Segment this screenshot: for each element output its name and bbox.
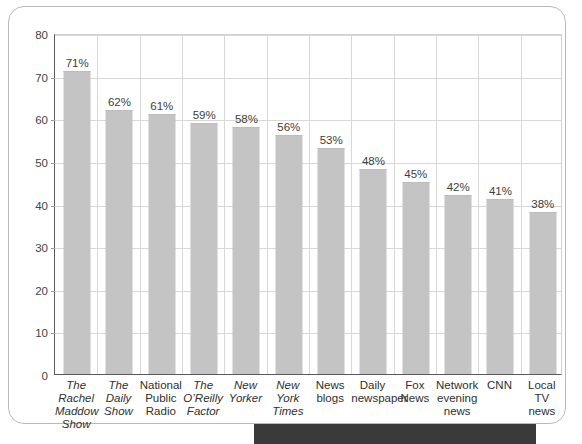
bar-value-label: 59%	[193, 109, 216, 121]
x-axis-label: NationalPublicRadio	[140, 379, 182, 418]
bar[interactable]	[64, 71, 91, 374]
y-axis-tick-label: 20	[35, 285, 48, 297]
bar[interactable]	[445, 195, 472, 374]
x-axis-label: LocalTV news	[521, 379, 563, 418]
x-axis-label-line: News	[309, 379, 351, 392]
bar-value-label: 41%	[489, 185, 512, 197]
bar-value-label: 71%	[66, 57, 89, 69]
y-axis-tick-label: 60	[35, 114, 48, 126]
x-axis-label-line: Times	[267, 405, 309, 418]
bar-slot: 45%	[395, 35, 437, 374]
x-axis-label-line: Yorker	[224, 392, 266, 405]
bar[interactable]	[233, 127, 260, 374]
x-axis-label: Dailynewspaper	[351, 379, 393, 405]
x-axis-label-line: O’Reilly	[182, 392, 224, 405]
x-axis-label: Newsblogs	[309, 379, 351, 405]
x-axis-label: TheDailyShow	[97, 379, 139, 418]
bar[interactable]	[318, 148, 345, 374]
x-axis-label-line: The	[182, 379, 224, 392]
y-axis-tick-mark	[51, 291, 55, 292]
x-axis-label: CNN	[478, 379, 520, 392]
x-axis-category-labels: The RachelMaddowShowTheDailyShowNational…	[55, 379, 563, 427]
bar-slot: 62%	[98, 35, 140, 374]
bar-slot: 59%	[183, 35, 225, 374]
x-axis-label: NewYorkTimes	[267, 379, 309, 418]
x-axis-label-line: blogs	[309, 392, 351, 405]
y-axis-tick-label: 0	[42, 370, 48, 382]
bar[interactable]	[106, 110, 133, 374]
bar-value-label: 62%	[108, 96, 131, 108]
bar[interactable]	[275, 135, 302, 374]
x-axis-label-line: News	[394, 392, 436, 405]
bar-slot: 41%	[479, 35, 521, 374]
x-axis-label-line: Fox	[394, 379, 436, 392]
x-axis-label-line: Show	[55, 418, 97, 431]
x-axis-label: TheO’ReillyFactor	[182, 379, 224, 418]
x-axis-label-line: CNN	[478, 379, 520, 392]
y-axis-tick-mark	[51, 120, 55, 121]
bar-value-label: 38%	[531, 198, 554, 210]
bar[interactable]	[529, 212, 556, 374]
bar-value-label: 56%	[277, 121, 300, 133]
bar-value-label: 48%	[362, 155, 385, 167]
bar[interactable]	[191, 123, 218, 374]
bar-slot: 48%	[352, 35, 394, 374]
y-axis-tick-mark	[51, 78, 55, 79]
x-axis-label-line: Show	[97, 405, 139, 418]
y-axis-tick-label: 50	[35, 157, 48, 169]
bar-value-label: 45%	[404, 168, 427, 180]
bar-slot: 58%	[225, 35, 267, 374]
bar[interactable]	[402, 182, 429, 374]
y-axis-tick-mark	[51, 163, 55, 164]
x-axis-label-line: evening	[436, 392, 478, 405]
bottom-dark-strip	[254, 424, 536, 444]
x-axis-label-line: New	[224, 379, 266, 392]
x-axis-label-line: Daily	[351, 379, 393, 392]
x-axis-label-line: The Rachel	[55, 379, 97, 405]
x-axis-label-line: National	[140, 379, 182, 392]
x-axis-label-line: The	[97, 379, 139, 392]
x-axis-label: The RachelMaddowShow	[55, 379, 97, 431]
y-axis-tick-label: 70	[35, 72, 48, 84]
bar-series: 71%62%61%59%58%56%53%48%45%42%41%38%	[56, 35, 561, 374]
y-axis-tick-label: 30	[35, 242, 48, 254]
bar-slot: 61%	[141, 35, 183, 374]
x-axis-label-line: Daily	[97, 392, 139, 405]
bar[interactable]	[360, 169, 387, 374]
x-axis-label-line: Local	[521, 379, 563, 392]
x-axis-label-line: York	[267, 392, 309, 405]
x-axis-label-line: TV news	[521, 392, 563, 418]
bar-slot: 42%	[437, 35, 479, 374]
bar[interactable]	[148, 114, 175, 374]
y-axis-tick-mark	[51, 248, 55, 249]
x-axis-label: NewYorker	[224, 379, 266, 405]
bar-value-label: 61%	[150, 100, 173, 112]
bar[interactable]	[487, 199, 514, 374]
x-axis-label-line: New	[267, 379, 309, 392]
x-axis-label: Networkeveningnews	[436, 379, 478, 418]
y-axis-tick-label: 40	[35, 200, 48, 212]
y-axis-tick-label: 10	[35, 327, 48, 339]
chart-card: 01020304050607080 71%62%61%59%58%56%53%4…	[8, 6, 566, 424]
x-axis-label: FoxNews	[394, 379, 436, 405]
bar-value-label: 42%	[447, 181, 470, 193]
x-axis-label-line: news	[436, 405, 478, 418]
x-axis-label-line: Factor	[182, 405, 224, 418]
bar-slot: 71%	[56, 35, 98, 374]
y-axis-tick-label: 80	[35, 29, 48, 41]
y-axis-tick-mark	[51, 206, 55, 207]
bar-slot: 56%	[268, 35, 310, 374]
bar-slot: 38%	[522, 35, 564, 374]
bar-value-label: 53%	[320, 134, 343, 146]
plot-area: 01020304050607080 71%62%61%59%58%56%53%4…	[54, 34, 562, 375]
bar-slot: 53%	[310, 35, 352, 374]
y-axis-tick-mark	[51, 333, 55, 334]
x-axis-label-line: Public	[140, 392, 182, 405]
x-axis-label-line: Maddow	[55, 405, 97, 418]
x-axis-label-line: newspaper	[351, 392, 393, 405]
x-axis-label-line: Network	[436, 379, 478, 392]
bar-value-label: 58%	[235, 113, 258, 125]
x-axis-label-line: Radio	[140, 405, 182, 418]
